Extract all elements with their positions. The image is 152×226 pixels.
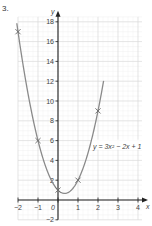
svg-text:8: 8 [50, 117, 54, 124]
svg-text:18: 18 [46, 18, 54, 25]
equation-label: y = 3x² − 2x + 1 [92, 143, 142, 151]
svg-text:14: 14 [46, 58, 54, 65]
y-axis-arrow-icon [56, 11, 61, 17]
x-axis-label: x [145, 203, 150, 210]
svg-text:16: 16 [46, 38, 54, 45]
svg-text:10: 10 [46, 98, 54, 105]
parabola-chart: −2−101234−224681012141618 yxy = 3x² − 2x… [0, 0, 152, 226]
svg-text:6: 6 [50, 137, 54, 144]
labels: yxy = 3x² − 2x + 1 [50, 8, 152, 210]
svg-text:2: 2 [96, 204, 100, 211]
svg-text:4: 4 [50, 157, 54, 164]
svg-text:−2: −2 [46, 216, 54, 223]
svg-text:3: 3 [116, 204, 120, 211]
svg-text:−1: −1 [34, 204, 42, 211]
x-axis-arrow-icon [142, 198, 148, 203]
svg-text:0: 0 [51, 204, 55, 211]
svg-text:1: 1 [76, 204, 80, 211]
curve [17, 23, 104, 193]
grid [18, 17, 142, 220]
svg-text:12: 12 [46, 78, 54, 85]
y-axis-label: y [50, 8, 55, 16]
svg-text:4: 4 [136, 204, 140, 211]
svg-text:−2: −2 [14, 204, 22, 211]
parabola-curve [17, 23, 104, 193]
